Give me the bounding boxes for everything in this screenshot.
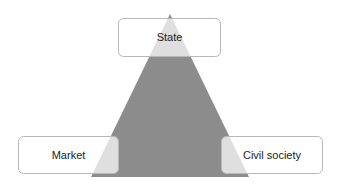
- state-label: State: [118, 32, 221, 43]
- market-label: Market: [18, 150, 119, 161]
- civil-society-label: Civil society: [221, 150, 323, 161]
